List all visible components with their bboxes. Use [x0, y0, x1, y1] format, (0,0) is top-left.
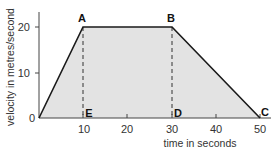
y-axis-label: velocity in metres/second	[4, 8, 16, 126]
point-label-B: B	[167, 12, 175, 24]
area-under-graph	[39, 27, 260, 118]
x-tick-label-30: 30	[166, 123, 178, 135]
x-tick-label-20: 20	[121, 123, 133, 135]
point-label-D: D	[174, 107, 182, 119]
x-tick-label-40: 40	[210, 123, 222, 135]
y-tick-label-20: 20	[18, 21, 30, 33]
x-tick-label-50: 50	[254, 123, 266, 135]
y-tick-label-10: 10	[18, 67, 30, 79]
point-label-E: E	[85, 107, 92, 119]
origin-label: 0	[29, 112, 35, 124]
velocity-time-graph: 20 10 0 10 20 30 40 50 A B C D E time in…	[0, 0, 276, 149]
point-label-C: C	[261, 106, 269, 118]
point-label-A: A	[78, 12, 86, 24]
x-axis-label: time in seconds	[164, 137, 237, 149]
x-tick-label-10: 10	[78, 123, 90, 135]
